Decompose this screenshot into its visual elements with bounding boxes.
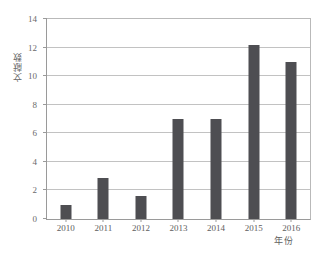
- x-tick-label: 2011: [95, 224, 113, 233]
- x-tick-group: 2015: [235, 19, 273, 219]
- bar-chart-figure: 文献数 02468101214 201020112012201320142015…: [0, 0, 329, 257]
- x-tick-label: 2010: [57, 224, 75, 233]
- x-axis-title: 年份: [274, 237, 294, 246]
- y-tick-label: 0: [33, 215, 38, 224]
- x-tick-mark: [216, 219, 217, 222]
- x-tick-label: 2015: [245, 224, 263, 233]
- x-tick-group: 2010: [47, 19, 85, 219]
- y-tick-label: 12: [28, 43, 37, 52]
- y-tick-label: 4: [33, 157, 38, 166]
- x-tick-mark: [253, 219, 254, 222]
- x-tick-group: 2011: [85, 19, 123, 219]
- x-tick-group: 2014: [197, 19, 235, 219]
- plot-area: 02468101214 2010201120122013201420152016: [46, 18, 311, 220]
- x-tick-label: 2016: [282, 224, 300, 233]
- x-tick-group: 2013: [160, 19, 198, 219]
- x-tick-mark: [65, 219, 66, 222]
- y-tick-label: 6: [33, 129, 38, 138]
- y-tick-label: 8: [33, 100, 38, 109]
- x-tick-mark: [140, 219, 141, 222]
- x-tick-mark: [103, 219, 104, 222]
- x-tick-mark: [178, 219, 179, 222]
- x-tick-label: 2012: [132, 224, 150, 233]
- y-axis-title: 文献数: [13, 52, 22, 82]
- x-tick-group: 2016: [272, 19, 310, 219]
- y-tick-label: 10: [28, 72, 37, 81]
- x-tick-mark: [291, 219, 292, 222]
- y-tick-label: 2: [33, 186, 38, 195]
- x-tick-group: 2012: [122, 19, 160, 219]
- x-tick-label: 2014: [207, 224, 225, 233]
- x-tick-label: 2013: [169, 224, 187, 233]
- y-tick-label: 14: [28, 15, 37, 24]
